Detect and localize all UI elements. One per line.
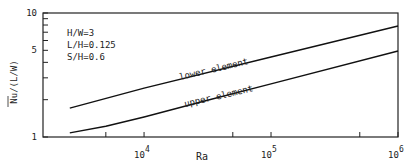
plot-frame: [43, 13, 398, 137]
svg-text:Nu/(L/W): Nu/(L/W): [9, 60, 19, 103]
y-tick-label: 1: [32, 132, 37, 142]
chart: 1510 104105106 lower elementupper elemen…: [0, 0, 420, 165]
plot-border: [43, 13, 398, 137]
y-axis-label: Nu/(L/W): [8, 60, 19, 107]
x-tick-exponent: 5: [272, 145, 277, 154]
x-tick-label: 10: [134, 150, 145, 160]
y-tick-label: 5: [32, 45, 37, 55]
x-tick-exponent: 6: [399, 145, 404, 154]
x-tick-label: 10: [261, 150, 272, 160]
annotation-line: S/H=0.6: [67, 52, 105, 62]
x-tick-exponent: 4: [145, 145, 150, 154]
series-lines: [70, 26, 398, 133]
y-tick-label: 10: [26, 8, 37, 18]
series-label-lower-element: lower element: [178, 56, 249, 82]
x-axis-label: Ra: [196, 151, 208, 162]
y-axis: 1510: [26, 8, 48, 142]
annotation-line: L/H=0.125: [67, 40, 116, 50]
annotation-line: H/W=3: [67, 28, 94, 38]
x-tick-label: 10: [388, 150, 399, 160]
x-axis: 104105106: [106, 132, 404, 160]
series-label-upper-element: upper element: [183, 83, 254, 109]
series-labels: lower elementupper element: [178, 56, 254, 109]
parameter-annotations: H/W=3L/H=0.125S/H=0.6: [67, 28, 116, 62]
